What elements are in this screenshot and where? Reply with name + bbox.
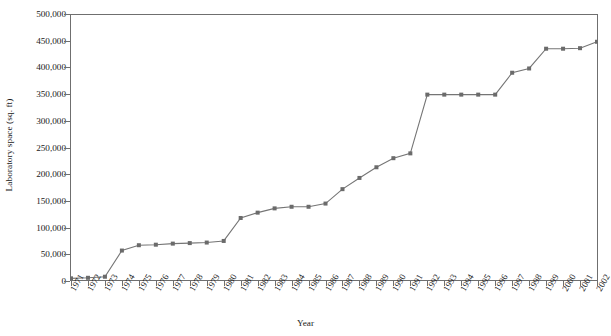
y-tick-mark [64,14,70,15]
series-markers [70,40,598,281]
y-tick-mark [64,148,70,149]
data-point-marker [171,242,175,246]
y-tick-label: 250,000 [14,143,66,153]
y-tick-label: 450,000 [14,36,66,46]
data-point-marker [493,93,497,97]
data-point-marker [595,40,598,44]
y-tick-mark [64,41,70,42]
y-tick-mark [64,174,70,175]
y-tick-mark [64,201,70,202]
y-tick-label: 350,000 [14,89,66,99]
data-point-marker [357,176,361,180]
data-point-marker [561,47,565,51]
data-point-marker [374,165,378,169]
y-tick-mark [64,281,70,282]
plot-series-svg [70,14,598,281]
data-point-marker [137,243,141,247]
y-tick-label: 300,000 [14,116,66,126]
y-tick-label: 500,000 [14,9,66,19]
data-point-marker [442,93,446,97]
x-axis-title: Year [0,318,611,328]
data-point-marker [154,243,158,247]
data-point-marker [425,93,429,97]
series-line [71,42,597,279]
data-point-marker [578,46,582,50]
y-tick-mark [64,121,70,122]
data-point-marker [324,202,328,206]
data-point-marker [120,249,124,253]
y-tick-label: 100,000 [14,223,66,233]
data-point-marker [307,205,311,209]
data-point-marker [273,206,277,210]
y-tick-label: 50,000 [14,249,66,259]
data-point-marker [459,93,463,97]
y-tick-mark [64,67,70,68]
data-point-marker [408,151,412,155]
data-point-marker [544,47,548,51]
data-point-marker [340,187,344,191]
data-point-marker [527,66,531,70]
data-point-marker [510,71,514,75]
y-axis-tick-labels: 050,000100,000150,000200,000250,000300,0… [14,14,66,281]
data-point-marker [188,241,192,245]
data-point-marker [476,93,480,97]
data-point-marker [222,239,226,243]
data-point-marker [391,156,395,160]
y-tick-label: 200,000 [14,169,66,179]
y-tick-label: 0 [14,276,66,286]
y-tick-label: 400,000 [14,62,66,72]
y-tick-mark [64,94,70,95]
y-tick-mark [64,228,70,229]
y-tick-label: 150,000 [14,196,66,206]
y-axis-title-text: Laboratory space (sq. ft) [4,99,14,192]
data-point-marker [256,211,260,215]
data-point-marker [239,216,243,220]
data-point-marker [290,205,294,209]
y-tick-mark [64,254,70,255]
laboratory-space-line-chart: Laboratory space (sq. ft) 050,000100,000… [0,0,611,336]
data-point-marker [205,241,209,245]
